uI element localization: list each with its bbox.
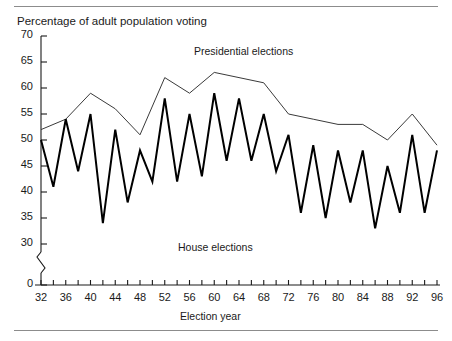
x-tick-label: 40: [80, 291, 102, 303]
y-tick-label: 60: [11, 80, 33, 92]
x-tick-label: 44: [104, 291, 126, 303]
y-tick-label: 55: [11, 106, 33, 118]
x-tick-label: 56: [179, 291, 201, 303]
x-tick-label: 80: [327, 291, 349, 303]
y-tick-label: 0: [11, 277, 33, 289]
y-tick-label: 65: [11, 54, 33, 66]
y-tick-label: 30: [11, 236, 33, 248]
x-tick-label: 36: [55, 291, 77, 303]
series-line-presidential: [41, 72, 437, 145]
tick-marks-group: [41, 36, 437, 285]
y-tick-label: 70: [11, 28, 33, 40]
x-tick-label: 84: [352, 291, 374, 303]
y-tick-label: 35: [11, 210, 33, 222]
series-line-house: [41, 93, 437, 228]
x-tick-label: 92: [401, 291, 423, 303]
chart-page: Percentage of adult population voting Pr…: [0, 0, 452, 341]
x-tick-label: 60: [203, 291, 225, 303]
x-tick-label: 68: [253, 291, 275, 303]
chart-plot-area: [0, 0, 452, 341]
x-tick-label: 48: [129, 291, 151, 303]
x-tick-label: 72: [278, 291, 300, 303]
data-series-group: [41, 72, 437, 228]
x-tick-label: 88: [377, 291, 399, 303]
x-tick-label: 64: [228, 291, 250, 303]
x-tick-label: 52: [154, 291, 176, 303]
y-tick-label: 45: [11, 158, 33, 170]
x-tick-label: 96: [426, 291, 448, 303]
x-tick-label: 32: [30, 291, 52, 303]
y-axis-break-glyph: [37, 252, 45, 273]
y-tick-label: 40: [11, 184, 33, 196]
y-tick-label: 50: [11, 132, 33, 144]
x-tick-label: 76: [302, 291, 324, 303]
